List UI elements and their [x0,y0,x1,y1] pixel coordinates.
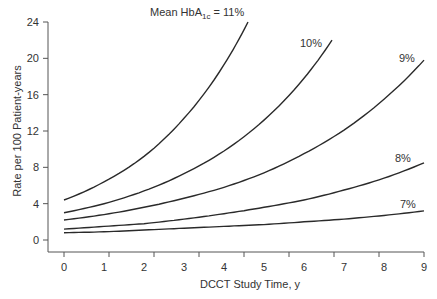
curves [64,22,424,233]
x-tick-label: 6 [301,261,307,273]
x-tick-label: 9 [421,261,427,273]
x-axis-title: DCCT Study Time, y [200,278,301,290]
label-9: 9% [399,52,415,64]
chart: 04812162024 0123456789 Mean HbA1c = 11% … [0,0,437,299]
curve-11pct [64,22,248,200]
x-tick-label: 1 [101,261,107,273]
y-tick-label: 24 [27,16,39,28]
x-tick-label: 0 [61,261,67,273]
curve-9pct [64,60,424,220]
label-10: 10% [300,37,322,49]
annotation-11: Mean HbA1c = 11% [150,6,244,21]
curve-8pct [64,163,424,229]
x-tick-label: 2 [141,261,147,273]
y-tick-label: 12 [27,125,39,137]
y-tick-label: 20 [27,52,39,64]
y-tick-label: 8 [33,161,39,173]
x-ticks: 0123456789 [61,252,427,273]
y-tick-label: 0 [33,234,39,246]
y-axis-title: Rate per 100 Patient-years [11,65,23,197]
y-ticks: 04812162024 [27,16,48,246]
x-tick-label: 8 [381,261,387,273]
y-tick-label: 4 [33,198,39,210]
x-tick-label: 7 [341,261,347,273]
label-8: 8% [395,152,411,164]
x-tick-label: 5 [261,261,267,273]
y-tick-label: 16 [27,89,39,101]
x-tick-label: 3 [181,261,187,273]
x-tick-label: 4 [221,261,227,273]
curve-10pct [64,40,332,213]
curve-7pct [64,211,424,233]
label-7: 7% [400,198,416,210]
